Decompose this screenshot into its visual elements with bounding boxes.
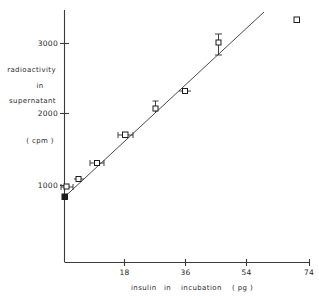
data-marker [123, 132, 129, 138]
data-point-outlier [294, 17, 300, 23]
data-point [61, 184, 73, 190]
data-points-group [61, 17, 300, 200]
y-tick-label-3000: 3000 [38, 39, 58, 48]
y-axis-unit-label: ( cpm ) [26, 137, 54, 145]
data-marker [76, 177, 81, 182]
y-axis-title: radioactivity in supernatant ( cpm ) [7, 66, 56, 145]
data-point [90, 160, 104, 166]
x-axis-title: insulin in incubation ( pg ) [131, 284, 253, 292]
x-axis-title-word-1: insulin [131, 284, 157, 292]
scatter-plot-canvas: 3000 2000 1000 18 36 54 74 radioactivity… [0, 0, 319, 298]
y-tick-label-2000: 2000 [38, 109, 58, 118]
data-marker [216, 40, 221, 45]
y-axis-title-line-3: supernatant [9, 97, 56, 105]
x-tick-label-74: 74 [304, 268, 314, 277]
regression-line [65, 12, 265, 197]
chart-figure: 3000 2000 1000 18 36 54 74 radioactivity… [0, 0, 319, 298]
data-marker [64, 184, 69, 189]
x-axis-tick-labels: 18 36 54 74 [119, 268, 314, 277]
x-axis-title-unit: ( pg ) [232, 284, 253, 292]
x-axis-title-word-3: incubation [181, 284, 222, 292]
data-marker [294, 17, 300, 23]
x-tick-label-36: 36 [180, 268, 190, 277]
data-point [118, 132, 133, 138]
data-marker [153, 106, 158, 111]
x-axis-title-word-2: in [164, 284, 171, 292]
x-tick-label-54: 54 [241, 268, 251, 277]
y-axis-tick-labels: 3000 2000 1000 [38, 39, 58, 190]
data-point [153, 101, 159, 113]
x-tick-label-18: 18 [119, 268, 129, 277]
y-axis-title-line-2: in [36, 82, 43, 90]
y-tick-label-1000: 1000 [38, 181, 58, 190]
y-axis-title-line-1: radioactivity [7, 66, 56, 74]
data-marker [95, 161, 100, 166]
data-point [62, 194, 68, 200]
regression-line-group [65, 12, 265, 197]
data-marker [62, 194, 68, 200]
plot-axes [65, 10, 311, 263]
data-marker [183, 89, 188, 94]
